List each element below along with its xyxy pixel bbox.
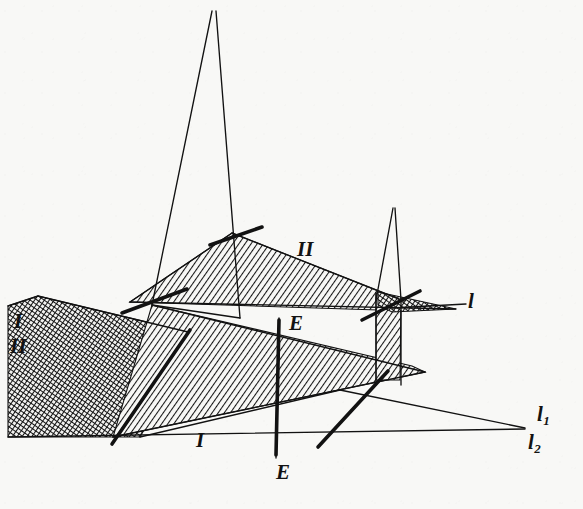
label-trace-l2: l2	[528, 432, 541, 455]
figure-root: IIIIIIlEEl1l2	[0, 0, 583, 509]
label-plane-I-left: I	[14, 311, 22, 332]
geometry-canvas	[0, 0, 583, 509]
label-trace-l1: l1	[537, 404, 550, 427]
label-axis-E-lower: E	[276, 462, 290, 483]
label-plane-II-left: II	[10, 336, 26, 357]
label-trace-l2-subscript: 2	[534, 441, 541, 456]
label-trace-l: l	[468, 291, 474, 312]
small-tri-right-leg	[395, 208, 401, 300]
upper-plane-II	[130, 233, 404, 310]
shaded-regions	[8, 233, 456, 437]
label-axis-E-upper: E	[289, 313, 303, 334]
trace-l1-line	[340, 390, 525, 428]
label-trace-l1-subscript: 1	[543, 413, 550, 428]
label-plane-II-upper: II	[297, 239, 313, 260]
small-tri-left-leg	[376, 208, 393, 300]
label-plane-I-lower: I	[196, 430, 204, 451]
